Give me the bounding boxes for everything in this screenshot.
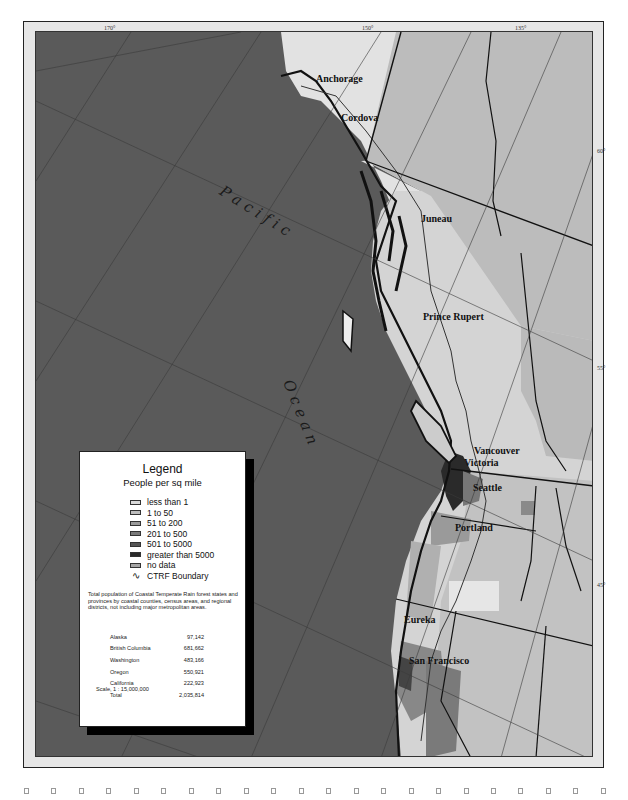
population-row: Alaska97,142	[110, 631, 204, 643]
legend-swatch	[130, 510, 141, 515]
binding-hole	[464, 788, 469, 794]
region-population: 222,923	[168, 677, 204, 689]
population-row: British Columbia681,662	[110, 643, 204, 655]
oregon-light-patch	[449, 581, 499, 611]
binding-holes	[24, 788, 606, 794]
binding-hole	[189, 788, 194, 794]
legend-item: 51 to 200	[130, 518, 214, 529]
binding-hole	[79, 788, 84, 794]
population-row: Washington483,166	[110, 654, 204, 666]
region-population: 483,166	[168, 654, 204, 666]
legend-item-label: greater than 5000	[147, 550, 214, 560]
legend-swatch	[130, 542, 141, 547]
region-name: Alaska	[110, 631, 168, 643]
legend-subtitle: People per sq mile	[80, 477, 245, 488]
binding-hole	[573, 788, 578, 794]
binding-hole	[546, 788, 551, 794]
legend-item: 201 to 500	[130, 529, 214, 540]
binding-hole	[244, 788, 249, 794]
legend-item: less than 1	[130, 497, 214, 508]
legend-item: greater than 5000	[130, 550, 214, 561]
spokane-patch	[521, 501, 535, 515]
region-population: 681,662	[168, 643, 204, 655]
city-label: Vancouver	[474, 445, 520, 456]
binding-hole	[216, 788, 221, 794]
city-label: Victoria	[464, 457, 499, 468]
binding-hole	[601, 788, 606, 794]
binding-hole	[326, 788, 331, 794]
latitude-label: 60°	[597, 148, 605, 154]
legend-swatch	[130, 563, 141, 568]
city-label: Portland	[455, 522, 493, 533]
binding-hole	[134, 788, 139, 794]
legend-swatch	[130, 521, 141, 526]
scale-label: Scale, 1 : 15,000,000	[96, 686, 149, 692]
region-population: 97,142	[168, 631, 204, 643]
legend-item: no data	[130, 560, 214, 571]
binding-hole	[106, 788, 111, 794]
binding-hole	[409, 788, 414, 794]
latitude-label: 45°	[597, 582, 605, 588]
binding-hole	[354, 788, 359, 794]
legend-title: Legend	[80, 462, 245, 476]
legend-item-boundary: ∿CTRF Boundary	[130, 571, 214, 582]
region-population: 550,921	[168, 666, 204, 678]
haida-gwaii	[343, 311, 353, 351]
binding-hole	[161, 788, 166, 794]
legend-items: less than 11 to 5051 to 200201 to 500501…	[130, 497, 214, 581]
binding-hole	[271, 788, 276, 794]
binding-hole	[436, 788, 441, 794]
legend-item: 1 to 50	[130, 508, 214, 519]
region-name: British Columbia	[110, 643, 168, 655]
region-name: Oregon	[110, 666, 168, 678]
population-row: Oregon550,921	[110, 666, 204, 678]
legend-swatch	[130, 531, 141, 536]
legend-swatch	[130, 500, 141, 505]
legend-item-label: 1 to 50	[147, 508, 173, 518]
city-label: Cordova	[341, 112, 378, 123]
legend-box: Legend People per sq mile less than 11 t…	[79, 451, 246, 727]
city-label: Seattle	[473, 482, 502, 493]
city-label: Anchorage	[316, 73, 363, 84]
population-note: Total population of Coastal Temperate Ra…	[88, 591, 240, 611]
binding-hole	[299, 788, 304, 794]
legend-item-label: 51 to 200	[147, 518, 182, 528]
city-label: Prince Rupert	[423, 311, 484, 322]
legend-item-label: 201 to 500	[147, 529, 187, 539]
boundary-line-icon: ∿	[130, 572, 141, 580]
legend-item-label: CTRF Boundary	[147, 571, 208, 581]
latitude-label: 55°	[597, 365, 605, 371]
city-label: Juneau	[421, 213, 452, 224]
city-label: San Francisco	[409, 655, 469, 666]
legend-item-label: 501 to 5000	[147, 539, 192, 549]
city-label: Eureka	[404, 614, 436, 625]
legend-item-label: no data	[147, 560, 175, 570]
binding-hole	[491, 788, 496, 794]
legend-swatch	[130, 552, 141, 557]
legend-item-label: less than 1	[147, 497, 188, 507]
binding-hole	[51, 788, 56, 794]
binding-hole	[381, 788, 386, 794]
region-population: 2,035,814	[168, 689, 204, 701]
region-name: Washington	[110, 654, 168, 666]
central-valley	[426, 661, 461, 757]
legend-item: 501 to 5000	[130, 539, 214, 550]
binding-hole	[518, 788, 523, 794]
binding-hole	[24, 788, 29, 794]
